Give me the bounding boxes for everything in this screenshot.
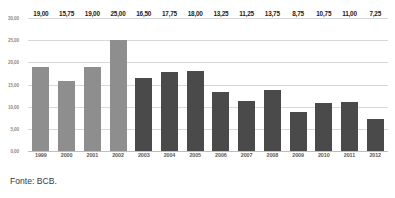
x-axis-tick-label: 2000 xyxy=(61,152,73,158)
x-axis-tick-label: 2005 xyxy=(189,152,201,158)
x-axis: 1999200020012002200320042005200620072008… xyxy=(28,152,388,169)
x-axis-tick-label: 2009 xyxy=(292,152,304,158)
y-axis-tick-label: 30,00 xyxy=(0,16,19,21)
bar-slot: 13,75 xyxy=(259,18,285,151)
bar-slot: 11,25 xyxy=(234,18,260,151)
x-axis-tick: 2006 xyxy=(208,152,234,169)
chart-figure: 30,0025,0020,0015,0010,005,000,00 19,001… xyxy=(0,0,395,198)
bar-2009: 8,75 xyxy=(290,112,307,151)
bar-slot: 25,00 xyxy=(105,18,131,151)
x-axis-tick: 2012 xyxy=(362,152,388,169)
bar-value-label: 17,75 xyxy=(162,10,177,17)
x-axis-tick-label: 2004 xyxy=(164,152,176,158)
bar-1999: 19,00 xyxy=(32,67,49,151)
bar-slot: 13,25 xyxy=(208,18,234,151)
bar-value-label: 18,00 xyxy=(188,10,203,17)
x-axis-tick: 2004 xyxy=(157,152,183,169)
x-axis-tick: 2000 xyxy=(54,152,80,169)
bar-value-label: 7,25 xyxy=(369,10,381,17)
bar-value-label: 13,25 xyxy=(213,10,228,17)
x-axis-tick-label: 2001 xyxy=(87,152,99,158)
bar-2011: 11,00 xyxy=(341,102,358,151)
bar-slot: 11,00 xyxy=(337,18,363,151)
bar-value-label: 11,25 xyxy=(239,10,254,17)
bar-2005: 18,00 xyxy=(187,71,204,151)
bar-slot: 16,50 xyxy=(131,18,157,151)
x-axis-tick-label: 2007 xyxy=(241,152,253,158)
bar-slot: 7,25 xyxy=(362,18,388,151)
y-axis-tick-label: 10,00 xyxy=(0,104,19,109)
bar-value-label: 19,00 xyxy=(33,10,48,17)
bar-value-label: 8,75 xyxy=(292,10,304,17)
bar-value-label: 11,00 xyxy=(342,10,357,17)
x-axis-tick: 2002 xyxy=(105,152,131,169)
bar-2003: 16,50 xyxy=(135,78,152,151)
bar-value-label: 16,50 xyxy=(136,10,151,17)
bar-value-label: 25,00 xyxy=(111,10,126,17)
y-axis-tick-label: 25,00 xyxy=(0,38,19,43)
source-note: Fonte: BCB. xyxy=(10,176,57,187)
bar-slot: 19,00 xyxy=(79,18,105,151)
x-axis-tick-label: 2003 xyxy=(138,152,150,158)
bar-2002: 25,00 xyxy=(110,40,127,151)
x-axis-tick-label: 2002 xyxy=(112,152,124,158)
bar-2001: 19,00 xyxy=(84,67,101,151)
y-axis-tick-label: 0,00 xyxy=(0,149,19,154)
bar-2000: 15,75 xyxy=(58,81,75,151)
x-axis-tick-label: 2010 xyxy=(318,152,330,158)
bar-slot: 18,00 xyxy=(182,18,208,151)
bar-slot: 17,75 xyxy=(157,18,183,151)
x-axis-tick-label: 2011 xyxy=(344,152,355,158)
bar-2008: 13,75 xyxy=(264,90,281,151)
x-axis-tick: 1999 xyxy=(28,152,54,169)
bar-2006: 13,25 xyxy=(212,92,229,151)
bar-value-label: 15,75 xyxy=(59,10,74,17)
bar-slot: 8,75 xyxy=(285,18,311,151)
y-axis-tick-label: 15,00 xyxy=(0,82,19,87)
x-axis-tick: 2003 xyxy=(131,152,157,169)
y-axis-tick-label: 5,00 xyxy=(0,126,19,131)
x-axis-tick: 2001 xyxy=(79,152,105,169)
x-axis-tick-label: 1999 xyxy=(35,152,47,158)
x-axis-tick: 2007 xyxy=(234,152,260,169)
bar-series: 19,0015,7519,0025,0016,5017,7518,0013,25… xyxy=(28,18,388,151)
x-axis-tick-label: 2008 xyxy=(267,152,279,158)
bar-slot: 10,75 xyxy=(311,18,337,151)
bar-value-label: 10,75 xyxy=(316,10,331,17)
x-axis-tick: 2010 xyxy=(311,152,337,169)
x-axis-tick: 2005 xyxy=(182,152,208,169)
bar-2012: 7,25 xyxy=(367,119,384,151)
y-axis-tick-label: 20,00 xyxy=(0,60,19,65)
bar-value-label: 13,75 xyxy=(265,10,280,17)
bar-slot: 15,75 xyxy=(54,18,80,151)
x-axis-tick-label: 2012 xyxy=(369,152,381,158)
x-axis-tick: 2008 xyxy=(259,152,285,169)
bar-2007: 11,25 xyxy=(238,101,255,151)
bar-value-label: 19,00 xyxy=(85,10,100,17)
x-axis-tick-label: 2006 xyxy=(215,152,227,158)
bar-slot: 19,00 xyxy=(28,18,54,151)
bar-2010: 10,75 xyxy=(315,103,332,151)
bar-2004: 17,75 xyxy=(161,72,178,151)
x-axis-tick: 2011 xyxy=(337,152,363,169)
x-axis-tick: 2009 xyxy=(285,152,311,169)
